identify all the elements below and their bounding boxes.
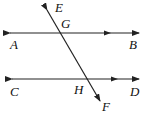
label-d: D — [129, 84, 140, 99]
label-f: F — [101, 99, 111, 114]
line-ab — [10, 31, 139, 36]
label-g: G — [61, 16, 71, 31]
label-c: C — [10, 84, 19, 99]
parallel-mark-ab — [104, 31, 111, 36]
label-b: B — [129, 37, 137, 52]
line-cd — [12, 77, 139, 82]
geometry-diagram: E G A B C H D F — [0, 0, 146, 116]
label-h: H — [73, 82, 84, 97]
label-a: A — [9, 37, 18, 52]
parallel-mark-cd — [111, 77, 118, 82]
label-e: E — [54, 0, 63, 15]
